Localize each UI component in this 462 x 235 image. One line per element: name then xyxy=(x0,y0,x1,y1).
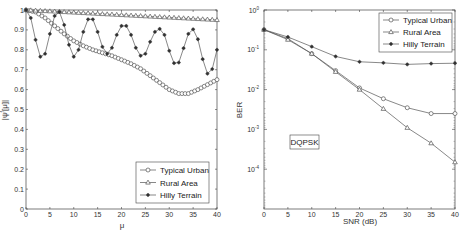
left-chart: 0510152025303540 00.10.20.30.40.50.60.70… xyxy=(0,7,221,231)
y-tick-label: 0.2 xyxy=(14,166,24,173)
legend-label: Rural Area xyxy=(160,179,198,188)
y-tick-label: 0.1 xyxy=(14,186,24,193)
figure: 0510152025303540 00.10.20.30.40.50.60.70… xyxy=(0,0,462,235)
y-tick-label: 0 xyxy=(20,206,24,213)
data-point-marker xyxy=(453,112,457,116)
x-tick-label: 25 xyxy=(379,211,387,218)
left-y-label: |ψf[μ]| xyxy=(0,100,9,120)
right-legend: Typical UrbanRural AreaHilly Terrain xyxy=(379,13,452,52)
x-tick-label: 35 xyxy=(427,211,435,218)
x-tick-label: 5 xyxy=(286,211,290,218)
data-point-marker xyxy=(215,78,219,82)
x-tick-label: 0 xyxy=(24,211,28,218)
x-tick-label: 25 xyxy=(141,211,149,218)
left-legend: Typical UrbanRural AreaHilly Terrain xyxy=(136,162,209,203)
annotation-text: DQPSK xyxy=(290,138,319,147)
x-tick-label: 5 xyxy=(48,211,52,218)
y-tick-label: 10-2 xyxy=(247,85,259,93)
right-y-label: BER xyxy=(235,102,244,119)
legend-label: Rural Area xyxy=(403,28,441,37)
data-point-marker xyxy=(429,112,433,116)
dqpsk-annotation: DQPSK xyxy=(290,135,319,149)
data-point-marker xyxy=(405,106,409,110)
x-tick-label: 30 xyxy=(403,211,411,218)
y-tick-label: 0.6 xyxy=(14,86,24,93)
x-tick-label: 35 xyxy=(189,211,197,218)
right-x-label: SNR (dB) xyxy=(343,217,378,226)
left-x-label: μ xyxy=(120,221,125,230)
y-tick-label: 100 xyxy=(249,6,260,14)
right-chart: 0510152025303540 10010-110-210-310-4 SNR… xyxy=(235,6,459,227)
y-tick-label: 10-1 xyxy=(247,45,259,53)
data-point-marker xyxy=(381,97,385,101)
x-tick-label: 20 xyxy=(118,211,126,218)
legend-label: Hilly Terrain xyxy=(403,40,445,49)
y-tick-label: 0.9 xyxy=(14,26,24,33)
y-tick-label: 10-4 xyxy=(247,165,259,173)
legend-marker xyxy=(146,168,150,172)
legend-label: Typical Urban xyxy=(403,16,452,25)
x-tick-label: 10 xyxy=(70,211,78,218)
y-tick-label: 0.5 xyxy=(14,106,24,113)
x-tick-label: 15 xyxy=(332,211,340,218)
legend-marker xyxy=(389,18,393,22)
x-tick-label: 30 xyxy=(165,211,173,218)
y-tick-label: 0.7 xyxy=(14,66,24,73)
legend-label: Typical Urban xyxy=(160,166,209,175)
y-tick-label: 10-3 xyxy=(247,125,259,133)
x-tick-label: 15 xyxy=(94,211,102,218)
x-tick-label: 40 xyxy=(451,211,459,218)
x-tick-label: 10 xyxy=(308,211,316,218)
y-tick-label: 1 xyxy=(20,7,24,14)
y-tick-label: 0.8 xyxy=(14,46,24,53)
y-tick-label: 0.4 xyxy=(14,126,24,133)
x-tick-label: 0 xyxy=(262,211,266,218)
x-tick-label: 40 xyxy=(213,211,221,218)
y-tick-label: 0.3 xyxy=(14,146,24,153)
legend-label: Hilly Terrain xyxy=(160,191,202,200)
